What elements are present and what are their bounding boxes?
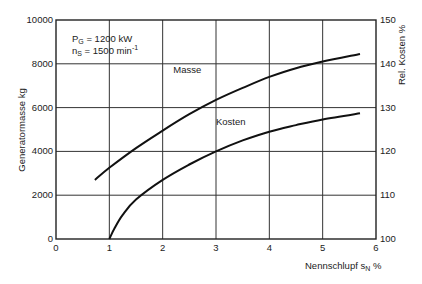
x-axis-ticks: 0123456 [53,242,378,253]
y-left-axis-label: Generatormasse kg [16,88,27,171]
y-left-tick-label: 8000 [32,58,53,69]
annotation-speed: nS = 1500 min-1 [72,44,138,57]
y-left-tick-label: 6000 [32,102,53,113]
x-tick-label: 5 [320,242,325,253]
y-left-tick-label: 4000 [32,145,53,156]
y-left-tick-label: 0 [48,233,53,244]
y-right-axis-ticks: 100110120130140150 [380,14,396,244]
y-right-axis-label: Rel. Kosten % [396,24,407,85]
x-tick-label: 4 [267,242,272,253]
x-tick-label: 2 [160,242,165,253]
y-left-axis-ticks: 0200040006000800010000 [27,14,53,244]
y-left-tick-label: 10000 [27,14,53,25]
curve-label-kosten: Kosten [216,116,246,127]
annotation-power: PG = 1200 kW [72,33,132,45]
x-tick-label: 6 [373,242,378,253]
chart: 0123456 0200040006000800010000 100110120… [0,0,422,284]
x-tick-label: 0 [53,242,58,253]
y-right-tick-label: 110 [380,189,395,200]
x-tick-label: 1 [107,242,112,253]
x-axis-label: Nennschlupf sN % [305,260,382,272]
y-right-tick-label: 120 [380,145,396,156]
y-right-tick-label: 140 [380,58,396,69]
curve-label-masse: Masse [173,64,201,75]
x-tick-label: 3 [213,242,218,253]
y-right-tick-label: 130 [380,102,396,113]
y-left-tick-label: 2000 [32,189,53,200]
y-right-tick-label: 150 [380,14,396,25]
data-curves [95,54,360,239]
y-right-tick-label: 100 [380,233,396,244]
